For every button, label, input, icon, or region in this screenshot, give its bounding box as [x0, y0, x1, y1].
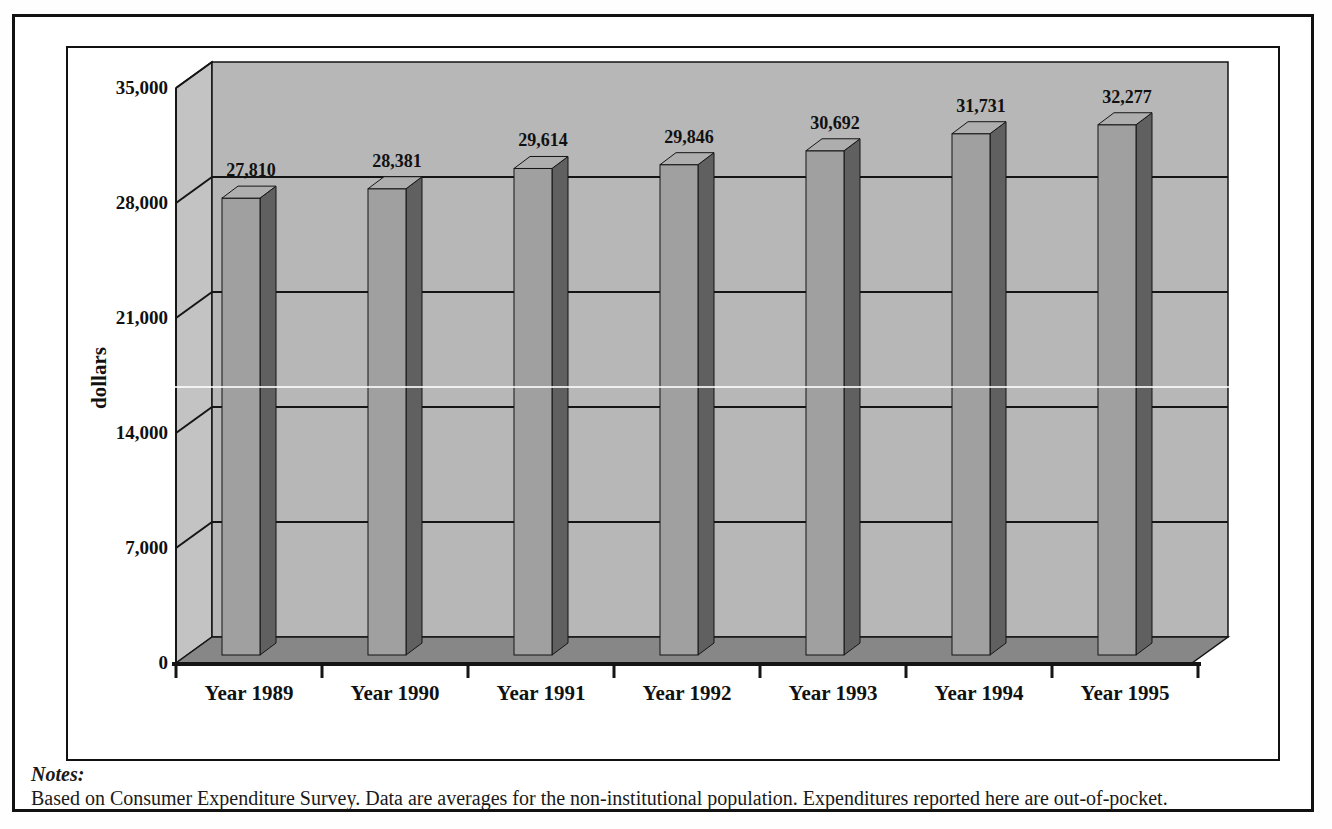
bar-3d	[660, 153, 714, 655]
bar-side-face	[260, 186, 276, 655]
notes-section: Notes: Based on Consumer Expenditure Sur…	[31, 763, 1301, 811]
bar-value-label: 30,692	[810, 113, 860, 133]
bar-front-face	[514, 168, 552, 655]
y-tick-label: 28,000	[116, 192, 168, 213]
bar-front-face	[1098, 125, 1136, 655]
bar-side-face	[844, 139, 860, 655]
x-category-label: Year 1995	[1081, 681, 1170, 705]
bar-3d	[514, 156, 568, 655]
y-tick-label: 35,000	[116, 77, 168, 98]
bar-3d	[368, 177, 422, 655]
bar-value-label: 29,846	[664, 127, 714, 147]
back-wall	[212, 62, 1228, 637]
y-axis-title: dollars	[87, 347, 111, 409]
bar-side-face	[698, 153, 714, 655]
bar-value-label: 28,381	[372, 151, 422, 171]
document-border: 07,00014,00021,00028,00035,00027,81028,3…	[12, 14, 1314, 812]
bar-side-face	[406, 177, 422, 655]
bar-value-label: 31,731	[956, 96, 1006, 116]
x-category-label: Year 1991	[497, 681, 586, 705]
bar-front-face	[806, 151, 844, 655]
y-tick-label: 21,000	[116, 307, 168, 328]
x-category-label: Year 1992	[643, 681, 732, 705]
x-category-label: Year 1994	[935, 681, 1024, 705]
y-tick-label: 0	[159, 652, 169, 673]
scanned-page: 07,00014,00021,00028,00035,00027,81028,3…	[0, 0, 1332, 829]
x-category-label: Year 1989	[205, 681, 294, 705]
bar-side-face	[1136, 113, 1152, 655]
bar-front-face	[222, 198, 260, 655]
y-tick-label: 14,000	[116, 422, 168, 443]
x-category-label: Year 1990	[351, 681, 440, 705]
chart-plot-frame: 07,00014,00021,00028,00035,00027,81028,3…	[66, 46, 1280, 761]
bar-side-face	[552, 156, 568, 655]
notes-heading: Notes:	[31, 763, 1301, 786]
bar-front-face	[952, 134, 990, 655]
left-wall	[176, 62, 212, 663]
bar-value-label: 29,614	[518, 130, 568, 150]
bar-3d	[1098, 113, 1152, 655]
bar-side-face	[990, 122, 1006, 655]
notes-body: Based on Consumer Expenditure Survey. Da…	[31, 786, 1301, 811]
bar-front-face	[368, 189, 406, 655]
bar-front-face	[660, 165, 698, 655]
bar-3d	[806, 139, 860, 655]
bar-3d	[222, 186, 276, 655]
x-category-label: Year 1993	[789, 681, 878, 705]
bar-value-label: 32,277	[1102, 87, 1152, 107]
bar-3d	[952, 122, 1006, 655]
bar-chart-3d: 07,00014,00021,00028,00035,00027,81028,3…	[68, 48, 1278, 759]
bar-value-label: 27,810	[226, 160, 276, 180]
y-tick-label: 7,000	[125, 537, 168, 558]
